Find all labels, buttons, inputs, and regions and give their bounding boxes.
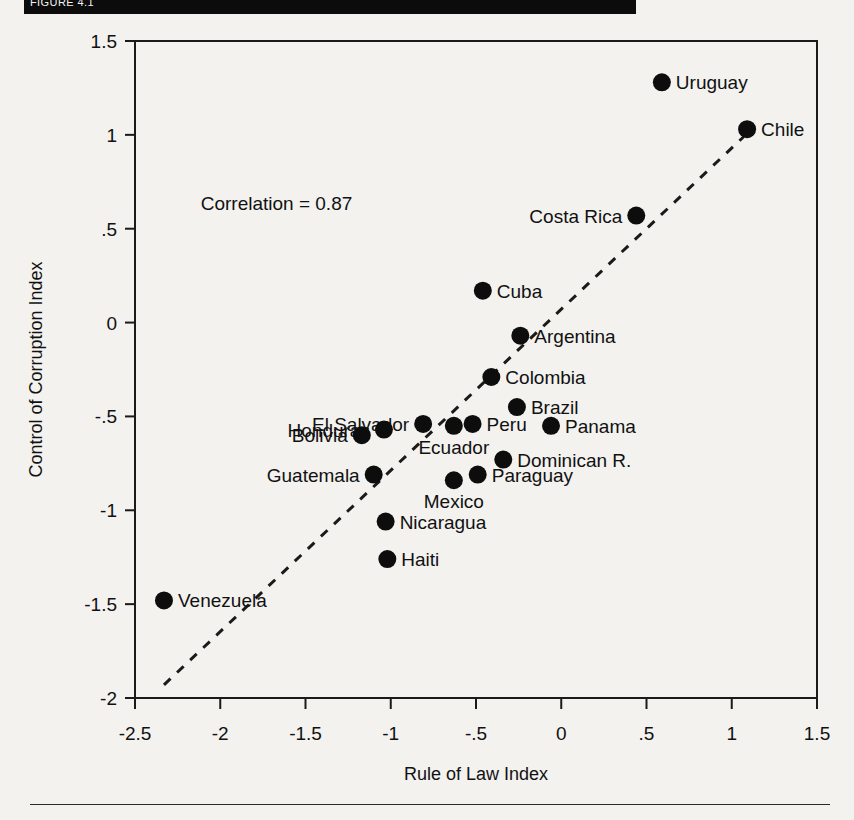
data-point[interactable] [353, 426, 371, 444]
data-point[interactable] [464, 415, 482, 433]
data-point[interactable] [414, 415, 432, 433]
x-tick-label: -1 [382, 723, 399, 744]
data-point-label: Nicaragua [400, 512, 487, 533]
data-point-label: Colombia [505, 367, 586, 388]
x-tick-label: 1.5 [804, 723, 830, 744]
y-tick-label: 1.5 [91, 31, 117, 52]
data-point-label: Mexico [424, 491, 484, 512]
data-point-label: Panama [565, 416, 636, 437]
x-tick-label: -2 [212, 723, 229, 744]
y-tick-label: .5 [101, 219, 117, 240]
x-axis-title: Rule of Law Index [404, 764, 548, 784]
x-tick-label: 1 [726, 723, 737, 744]
data-point[interactable] [469, 466, 487, 484]
data-point[interactable] [445, 417, 463, 435]
correlation-annotation: Correlation = 0.87 [201, 193, 353, 214]
x-tick-label: -2.5 [119, 723, 152, 744]
y-tick-label: 0 [106, 313, 117, 334]
y-tick-label: -1 [100, 500, 117, 521]
scatter-plot-svg: 1.51.50-.5-1-1.5-2-2.5-2-1.5-1-.50.511.5… [0, 0, 854, 820]
data-point[interactable] [474, 282, 492, 300]
data-point-label: Costa Rica [529, 206, 622, 227]
y-tick-label: -2 [100, 688, 117, 709]
data-point-label: Ecuador [418, 437, 489, 458]
data-point-label: Argentina [534, 326, 616, 347]
footer-rule [30, 804, 830, 805]
data-point-label: Cuba [497, 281, 543, 302]
y-tick-label: 1 [106, 125, 117, 146]
data-point-label: Bolivia [292, 425, 348, 446]
data-point[interactable] [482, 368, 500, 386]
scatter-plot: 1.51.50-.5-1-1.5-2-2.5-2-1.5-1-.50.511.5… [0, 0, 854, 820]
data-point-label: Uruguay [676, 72, 748, 93]
data-point[interactable] [738, 120, 756, 138]
data-point[interactable] [375, 421, 393, 439]
data-point[interactable] [155, 591, 173, 609]
data-point-label: Haiti [401, 549, 439, 570]
data-point[interactable] [378, 550, 396, 568]
data-point[interactable] [653, 73, 671, 91]
x-tick-label: 0 [556, 723, 567, 744]
data-point-label: Peru [487, 414, 527, 435]
y-tick-label: -1.5 [84, 594, 117, 615]
data-point[interactable] [542, 417, 560, 435]
data-point-label: Venezuela [178, 590, 267, 611]
data-point[interactable] [377, 513, 395, 531]
y-tick-label: -.5 [95, 406, 117, 427]
data-point-label: Guatemala [267, 465, 360, 486]
x-tick-label: -.5 [465, 723, 487, 744]
data-point[interactable] [445, 471, 463, 489]
data-point[interactable] [365, 466, 383, 484]
figure-root: FIGURE 4.1 1.51.50-.5-1-1.5-2-2.5-2-1.5-… [0, 0, 854, 820]
data-point[interactable] [511, 327, 529, 345]
data-point-label: Chile [761, 119, 804, 140]
y-axis-title: Control of Corruption Index [26, 261, 46, 477]
x-tick-label: -1.5 [289, 723, 322, 744]
data-point[interactable] [627, 207, 645, 225]
x-tick-label: .5 [639, 723, 655, 744]
data-point-label: Paraguay [492, 465, 574, 486]
